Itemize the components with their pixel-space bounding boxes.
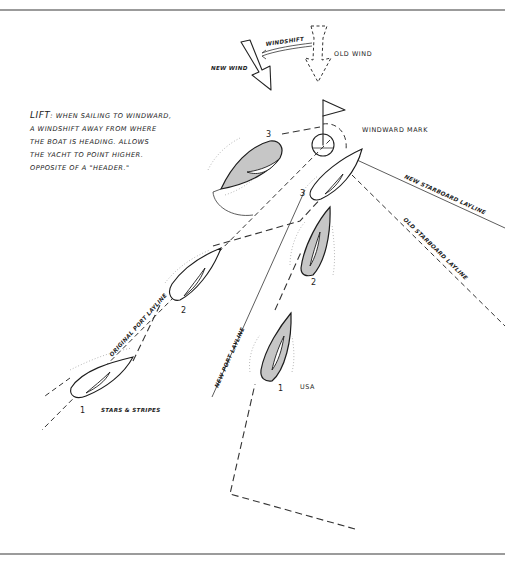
definition-line-3: THE BOAT IS HEADING. ALLOWS <box>30 138 149 146</box>
usa-position-3: 3 <box>266 130 271 139</box>
stars-and-stripes-course-tail <box>45 378 70 396</box>
svg-text:LIFT: WHEN SAILING TO WINDWARD: LIFT: WHEN SAILING TO WINDWARD, <box>30 110 172 120</box>
windshift-label: WINDSHIFT <box>265 36 305 47</box>
definition-line-2: A WINDSHIFT AWAY FROM WHERE <box>29 125 157 133</box>
usa-boat-1: 1 <box>249 313 293 393</box>
stars-and-stripes-boat-3: 3 <box>300 149 362 200</box>
usa-boat-2: 2 <box>290 207 335 287</box>
new-starboard-layline-label: NEW STARBOARD LAYLINE <box>404 173 487 215</box>
usa-position-2: 2 <box>311 278 316 287</box>
definition-term: LIFT <box>30 110 51 120</box>
stars-and-stripes-position-3: 3 <box>300 189 305 198</box>
definition-line-5: OPPOSITE OF A "HEADER." <box>30 164 130 172</box>
stars-and-stripes-position-2: 2 <box>181 306 186 315</box>
new-port-layline-label: NEW PORT LAYLINE <box>213 326 245 388</box>
stars-and-stripes-boat-1: 1 <box>70 348 133 415</box>
usa-boat-3: 3 <box>208 130 282 215</box>
original-port-layline-label: ORIGINAL PORT LAYLINE <box>108 292 168 358</box>
lift-diagram: WINDSHIFT NEW WIND OLD WIND LIFT: WHEN S… <box>0 0 507 566</box>
old-wind-label: OLD WIND <box>334 50 372 58</box>
usa-course <box>230 250 355 529</box>
windward-mark-label: WINDWARD MARK <box>362 126 428 134</box>
definition-line-4: THE YACHT TO POINT HIGHER. <box>30 151 143 159</box>
old-wind-arrow-icon <box>305 26 331 82</box>
definition-line-1: WHEN SAILING TO WINDWARD, <box>56 112 172 120</box>
usa-label: USA <box>300 383 315 391</box>
stars-and-stripes-position-1: 1 <box>80 406 85 415</box>
old-starboard-layline <box>352 175 505 326</box>
new-starboard-layline <box>357 160 505 228</box>
old-starboard-layline-label: OLD STARBOARD LAYLINE <box>402 216 469 281</box>
stars-and-stripes-boat-2: 2 <box>165 248 221 315</box>
usa-position-1: 1 <box>278 384 283 393</box>
new-wind-label: NEW WIND <box>211 65 248 71</box>
stars-and-stripes-label: STARS & STRIPES <box>101 407 161 413</box>
lift-definition: LIFT: WHEN SAILING TO WINDWARD, A WINDSH… <box>29 110 172 172</box>
